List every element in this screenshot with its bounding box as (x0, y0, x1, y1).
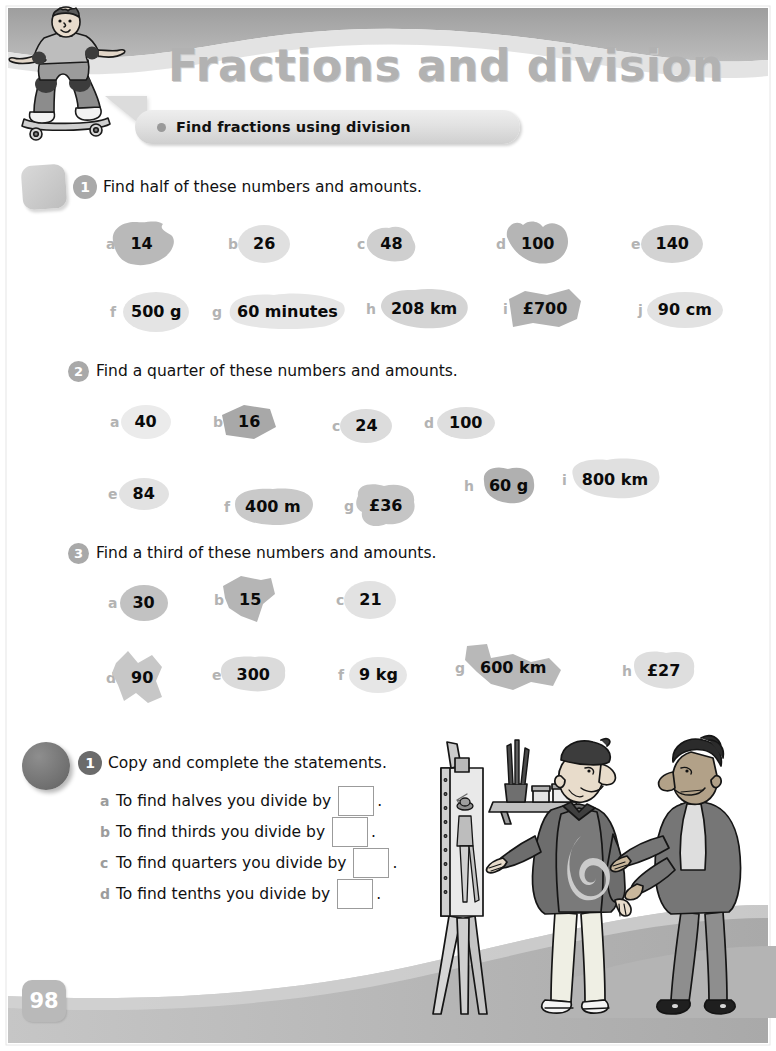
statement-letter: a (100, 793, 116, 809)
answer-box-b[interactable] (332, 817, 368, 847)
item-value: 48 (371, 232, 411, 255)
item-2h[interactable]: h 60 g (464, 474, 537, 497)
item-value: 300 (228, 663, 279, 686)
statement-period: . (392, 854, 397, 872)
value-blob: 60 minutes (228, 300, 347, 323)
item-value: 800 km (573, 468, 657, 491)
item-value: 30 (123, 591, 163, 614)
value-blob: 140 (647, 232, 698, 255)
statement-c: c To find quarters you divide by . (100, 848, 397, 878)
item-1g[interactable]: g 60 minutes (212, 300, 347, 323)
statement-text: To find thirds you divide by (116, 823, 325, 841)
exercise-1-instruction: Find half of these numbers and amounts. (103, 178, 422, 196)
value-blob: 100 (512, 232, 563, 255)
statement-letter: d (100, 886, 116, 902)
item-value: 15 (230, 588, 270, 611)
value-blob: 100 (440, 411, 491, 434)
item-value: 140 (647, 232, 698, 255)
exercise-2-badge: 2 (68, 361, 89, 382)
value-blob: 500 g (122, 300, 190, 323)
item-3g[interactable]: g 600 km (455, 656, 555, 679)
statement-period: . (377, 792, 382, 810)
item-3d[interactable]: d 90 (106, 666, 162, 689)
item-letter: f (110, 304, 116, 320)
objective-label: Find fractions using division (176, 119, 411, 135)
value-blob: 21 (350, 588, 390, 611)
item-value: 100 (512, 232, 563, 255)
item-3e[interactable]: e 300 (212, 663, 279, 686)
section-b-instruction: Copy and complete the statements. (108, 754, 387, 772)
item-value: £700 (514, 297, 577, 320)
item-value: 16 (229, 410, 269, 433)
item-3h[interactable]: h £27 (622, 659, 689, 682)
item-3b[interactable]: b 15 (214, 588, 270, 611)
worksheet-page: Fractions and division Find fractions us… (0, 0, 776, 1051)
page-header: Fractions and division Find fractions us… (0, 0, 776, 160)
item-value: 600 km (471, 656, 555, 679)
item-1a[interactable]: a 14 (106, 232, 162, 255)
section-b-badge: 1 (78, 751, 102, 775)
answer-box-d[interactable] (337, 879, 373, 909)
item-1e[interactable]: e 140 (631, 232, 698, 255)
objective-bar: Find fractions using division (135, 110, 520, 144)
item-letter: g (212, 304, 222, 320)
item-value: 9 kg (350, 663, 407, 686)
item-2c[interactable]: c 24 (332, 414, 387, 437)
value-blob: 800 km (573, 468, 657, 491)
item-1b[interactable]: b 26 (228, 232, 284, 255)
statement-b: b To find thirds you divide by . (100, 817, 376, 847)
item-value: 40 (125, 410, 165, 433)
item-value: 14 (121, 232, 161, 255)
value-blob: 60 g (480, 474, 537, 497)
item-1h[interactable]: h 208 km (366, 297, 466, 320)
value-blob: 300 (228, 663, 279, 686)
value-blob: 208 km (382, 297, 466, 320)
answer-box-c[interactable] (353, 848, 389, 878)
value-blob: 24 (346, 414, 386, 437)
item-value: 100 (440, 411, 491, 434)
item-letter: f (338, 667, 344, 683)
item-2d[interactable]: d 100 (424, 411, 491, 434)
value-blob: 600 km (471, 656, 555, 679)
value-blob: 40 (125, 410, 165, 433)
item-value: 500 g (122, 300, 190, 323)
item-3a[interactable]: a 30 (108, 591, 164, 614)
item-2i[interactable]: i 800 km (562, 468, 657, 491)
item-2b[interactable]: b 16 (213, 410, 269, 433)
item-3f[interactable]: f 9 kg (338, 663, 407, 686)
item-1f[interactable]: f 500 g (110, 300, 191, 323)
value-blob: 9 kg (350, 663, 407, 686)
item-2f[interactable]: f 400 m (224, 495, 310, 518)
statement-text: To find quarters you divide by (116, 854, 346, 872)
statement-text: To find halves you divide by (116, 792, 331, 810)
item-value: 400 m (236, 495, 310, 518)
statement-period: . (371, 823, 376, 841)
value-blob: 14 (121, 232, 161, 255)
item-2e[interactable]: e 84 (108, 482, 164, 505)
item-1j[interactable]: j 90 cm (638, 298, 721, 321)
value-blob: 16 (229, 410, 269, 433)
item-2a[interactable]: a 40 (110, 410, 166, 433)
item-value: 24 (346, 414, 386, 437)
value-blob: £27 (638, 659, 689, 682)
exercise-3-badge: 3 (68, 543, 89, 564)
item-1c[interactable]: c 48 (357, 232, 412, 255)
item-1d[interactable]: d 100 (496, 232, 563, 255)
answer-box-a[interactable] (338, 786, 374, 816)
value-blob: 26 (244, 232, 284, 255)
item-value: 26 (244, 232, 284, 255)
exercise-2-instruction: Find a quarter of these numbers and amou… (96, 362, 458, 380)
value-blob: 400 m (236, 495, 310, 518)
value-blob: 84 (124, 482, 164, 505)
item-value: 60 minutes (228, 300, 347, 323)
item-1i[interactable]: i £700 (503, 297, 576, 320)
item-3c[interactable]: c 21 (336, 588, 391, 611)
two-artists-with-easel-icon (405, 718, 776, 1018)
value-blob: 90 cm (649, 298, 721, 321)
item-value: 90 (122, 666, 162, 689)
item-value: 60 g (480, 474, 537, 497)
value-blob: 90 (122, 666, 162, 689)
item-letter: h (464, 478, 474, 494)
section-a-square-marker (21, 164, 68, 211)
item-2g[interactable]: g £36 (344, 494, 411, 517)
